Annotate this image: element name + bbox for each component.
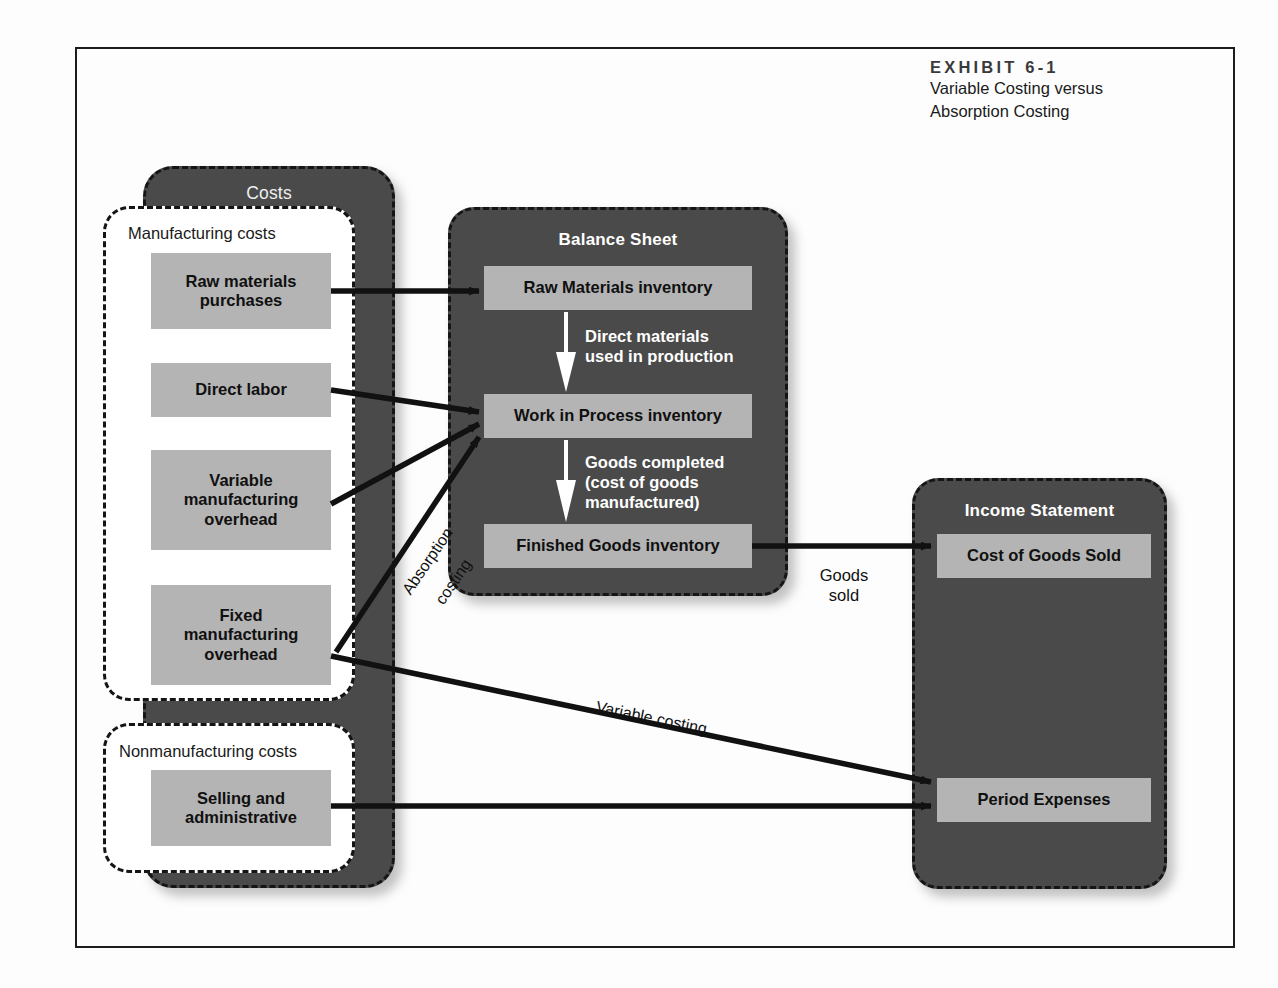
edge-label-goods-sold: Goods sold — [804, 565, 884, 605]
arrow-wip-to-finished-goods-internal — [556, 440, 576, 522]
arrow-fixed-overhead-to-wip-absorption — [336, 437, 479, 652]
arrow-raw-materials-to-wip-internal — [556, 312, 576, 392]
arrow-variable-overhead-to-wip — [331, 424, 479, 504]
flow-arrows — [0, 0, 1278, 988]
arrow-direct-labor-to-wip — [331, 390, 479, 412]
exhibit-page: EXHIBIT 6-1 Variable Costing versus Abso… — [0, 0, 1278, 988]
